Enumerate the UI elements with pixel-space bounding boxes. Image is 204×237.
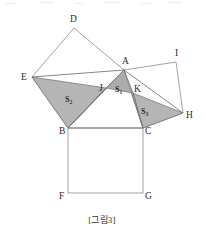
segment-a-e bbox=[32, 70, 124, 77]
square-on-BC bbox=[68, 128, 143, 193]
figure-container: A B C D E F G H I J K S1 S2 S3 [그림3] bbox=[0, 0, 204, 237]
geometry-figure: A B C D E F G H I J K S1 S2 S3 bbox=[0, 0, 204, 237]
vertex-label-E: E bbox=[21, 72, 27, 82]
region-label-s2-sub: 2 bbox=[69, 99, 72, 105]
vertex-label-G: G bbox=[145, 191, 152, 201]
vertex-label-F: F bbox=[59, 191, 64, 201]
region-label-s3-sub: 3 bbox=[145, 111, 148, 117]
shaded-regions-group bbox=[32, 70, 183, 128]
vertex-label-D: D bbox=[70, 14, 77, 24]
vertex-label-A: A bbox=[122, 56, 129, 66]
vertex-label-C: C bbox=[145, 126, 151, 136]
vertex-label-K: K bbox=[134, 84, 141, 94]
vertex-label-I: I bbox=[175, 48, 178, 58]
region-label-s1-sub: 1 bbox=[119, 89, 122, 95]
figure-caption: [그림3] bbox=[0, 213, 204, 226]
vertex-label-B: B bbox=[59, 126, 65, 136]
scan-artifacts bbox=[6, 2, 182, 4]
vertex-label-J: J bbox=[99, 83, 103, 93]
vertex-label-H: H bbox=[186, 110, 193, 120]
